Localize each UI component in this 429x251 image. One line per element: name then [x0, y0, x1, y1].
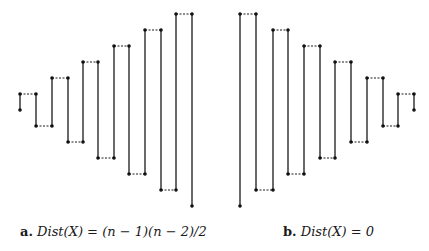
vertex-dot [381, 124, 385, 128]
vertex-dot [174, 12, 178, 16]
vertex-dot [412, 108, 416, 112]
vertex-dot [143, 172, 147, 176]
caption-a-formula: Dist(X) = (n − 1)(n − 2)/2 [37, 224, 207, 239]
vertex-dot [66, 76, 70, 80]
vertex-dot [254, 12, 258, 16]
vertex-dot [34, 92, 38, 96]
vertex-dot [365, 140, 369, 144]
vertex-dot [333, 60, 337, 64]
vertex-dot [396, 92, 400, 96]
vertex-dot [112, 44, 116, 48]
vertex-dot [127, 172, 131, 176]
vertex-dot [333, 156, 337, 160]
vertex-dot [302, 44, 306, 48]
vertex-dot [34, 124, 38, 128]
caption-a-label: a. [20, 224, 33, 239]
vertex-dot [96, 156, 100, 160]
vertex-dot [174, 188, 178, 192]
vertex-dot [349, 140, 353, 144]
vertex-dot [127, 44, 131, 48]
caption-b-label: b. [283, 224, 297, 239]
vertex-dot [381, 76, 385, 80]
figure-b-zigzag-path [238, 12, 416, 208]
vertex-dot [302, 172, 306, 176]
vertex-dot [238, 12, 242, 16]
vertex-dot [396, 124, 400, 128]
vertex-dot [318, 156, 322, 160]
vertex-dot [96, 60, 100, 64]
vertex-dot [190, 12, 194, 16]
vertex-dot [50, 76, 54, 80]
vertex-dot [254, 188, 258, 192]
vertex-dot [286, 28, 290, 32]
vertex-dot [50, 124, 54, 128]
vertex-dot [412, 92, 416, 96]
vertex-dot [286, 172, 290, 176]
vertex-dot [81, 60, 85, 64]
vertex-dot [238, 204, 242, 208]
vertex-dot [271, 188, 275, 192]
vertex-dot [143, 28, 147, 32]
vertex-dot [18, 92, 22, 96]
diagram-canvas [0, 0, 429, 251]
vertex-dot [81, 140, 85, 144]
vertex-dot [349, 60, 353, 64]
caption-b: b. Dist(X) = 0 [283, 225, 374, 238]
vertex-dot [159, 28, 163, 32]
caption-a: a. Dist(X) = (n − 1)(n − 2)/2 [20, 225, 207, 238]
figure-a-zigzag-path [18, 12, 194, 208]
vertex-dot [66, 140, 70, 144]
vertex-dot [112, 156, 116, 160]
vertex-dot [18, 108, 22, 112]
vertex-dot [271, 28, 275, 32]
caption-b-formula: Dist(X) = 0 [301, 224, 374, 239]
vertex-dot [365, 76, 369, 80]
vertex-dot [190, 204, 194, 208]
vertex-dot [159, 188, 163, 192]
vertex-dot [318, 44, 322, 48]
